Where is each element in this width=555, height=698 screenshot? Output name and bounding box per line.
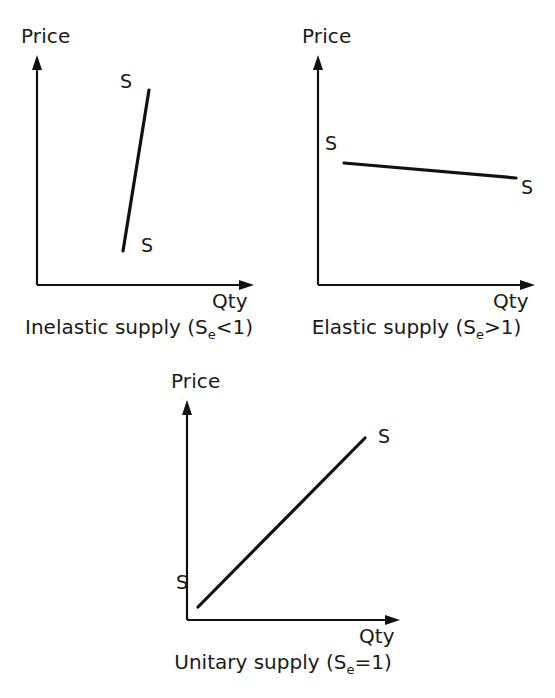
supply-label-bottom: S: [176, 573, 188, 592]
y-axis: [32, 55, 42, 285]
y-axis-label: Price: [171, 371, 220, 391]
panel-caption: Unitary supply (Se=1): [138, 652, 428, 676]
elastic-supply-panel: Price Qty S S Elastic supply (Se>1): [278, 0, 555, 345]
y-axis: [313, 55, 323, 285]
caption-prefix: Unitary supply (S: [174, 650, 346, 674]
caption-suffix: =1): [354, 650, 391, 674]
supply-label-top: S: [120, 72, 132, 91]
x-axis-label: Qty: [493, 291, 529, 311]
x-axis-label: Qty: [359, 626, 395, 646]
supply-curve-unitary: [198, 438, 365, 607]
unitary-supply-panel: Price Qty S S Unitary supply (Se=1): [138, 350, 428, 698]
panel-caption: Elastic supply (Se>1): [278, 317, 555, 341]
x-axis-label: Qty: [212, 291, 248, 311]
panel-caption: Inelastic supply (Se<1): [0, 317, 278, 341]
supply-curve-inelastic: [123, 90, 149, 251]
caption-subscript: e: [208, 327, 216, 342]
supply-label-top: S: [325, 134, 337, 153]
caption-suffix: >1): [484, 315, 521, 339]
supply-elasticity-figure: Price Qty S S Inelastic supply (Se<1) Pr…: [0, 0, 555, 698]
y-axis-label: Price: [302, 26, 351, 46]
caption-suffix: <1): [216, 315, 253, 339]
caption-prefix: Inelastic supply (S: [25, 315, 208, 339]
y-axis-label: Price: [21, 26, 70, 46]
inelastic-supply-panel: Price Qty S S Inelastic supply (Se<1): [0, 0, 278, 345]
caption-subscript: e: [476, 327, 484, 342]
supply-curve-elastic: [344, 163, 516, 178]
supply-label-bottom: S: [521, 178, 533, 197]
supply-label-bottom: S: [141, 236, 153, 255]
caption-prefix: Elastic supply (S: [312, 315, 476, 339]
supply-label-top: S: [378, 427, 390, 446]
